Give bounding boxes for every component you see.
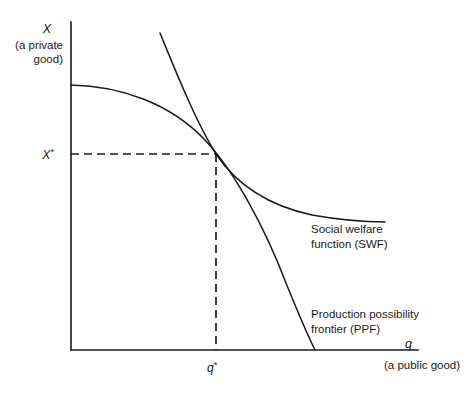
y-tick-star: * <box>50 147 54 157</box>
y-axis-variable-label: X <box>42 22 52 36</box>
swf-curve <box>160 33 385 222</box>
y-axis-sublabel-line1: (a private <box>15 39 63 51</box>
x-axis-variable-label: q <box>405 337 412 351</box>
ppf-swf-plot: X (a private good) q (a public good) X* … <box>0 0 468 395</box>
swf-annotation-line1: Social welfare <box>311 223 383 235</box>
x-axis-sublabel: (a public good) <box>384 359 460 371</box>
ppf-annotation-line1: Production possibility <box>311 308 419 320</box>
ppf-curve <box>71 85 315 350</box>
economics-diagram: X (a private good) q (a public good) X* … <box>0 0 468 395</box>
x-tick-label-q-star: q* <box>207 360 218 375</box>
swf-annotation-line2: function (SWF) <box>311 238 388 250</box>
ppf-annotation-line2: frontier (PPF) <box>311 323 380 335</box>
y-axis-sublabel-line2: good) <box>34 53 64 65</box>
y-tick-label-x-star: X* <box>41 147 54 162</box>
x-tick-star: * <box>214 360 218 370</box>
